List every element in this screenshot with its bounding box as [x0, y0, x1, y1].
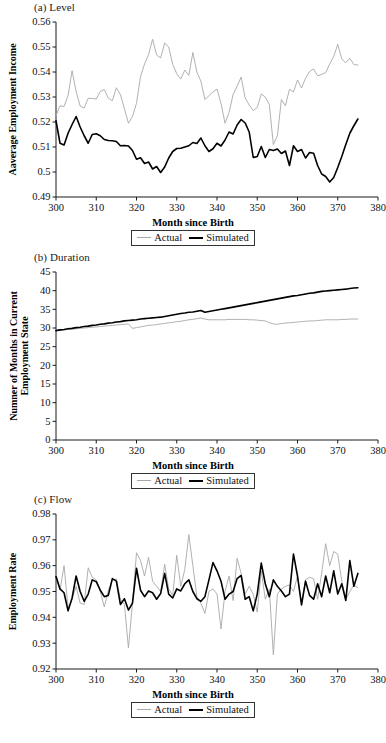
panel-c-title: (c) Flow [0, 492, 386, 506]
panel-level: (a) Level 0.490.50.510.520.530.540.550.5… [0, 0, 386, 246]
legend-item-actual: Actual [137, 704, 182, 715]
y-tick-label: 0.96 [32, 560, 50, 571]
x-tick-label: 350 [249, 202, 265, 213]
panel-a-legend-row: Actual Simulated [0, 228, 386, 246]
legend-line-actual-icon [137, 480, 151, 481]
y-tick-label: 0.94 [32, 612, 51, 623]
y-tick-label: 15 [40, 378, 51, 389]
x-tick-label: 350 [249, 445, 265, 456]
x-tick-label: 360 [290, 202, 306, 213]
panel-flow: (c) Flow 0.920.930.940.950.960.970.98300… [0, 492, 386, 718]
y-tick-label: 0.98 [32, 508, 50, 519]
legend-item-simulated: Simulated [189, 232, 249, 243]
y-tick-label: 0.49 [32, 191, 50, 202]
x-tick-label: 300 [48, 674, 64, 685]
legend-label-simulated: Simulated [206, 704, 249, 715]
x-tick-label: 370 [330, 445, 346, 456]
legend-label-actual: Actual [154, 232, 182, 243]
legend-line-actual-icon [137, 709, 151, 710]
legend-line-actual-icon [137, 237, 151, 238]
x-tick-label: 340 [209, 674, 225, 685]
y-tick-label: 0.56 [32, 16, 50, 27]
series-line-actual [56, 39, 358, 144]
x-tick-label: 310 [88, 445, 104, 456]
x-tick-label: 300 [48, 445, 64, 456]
legend-item-actual: Actual [137, 475, 182, 486]
legend-label-simulated: Simulated [206, 475, 249, 486]
x-tick-label: 320 [129, 202, 145, 213]
x-tick-label: 380 [370, 445, 386, 456]
panel-c-legend: Actual Simulated [131, 702, 255, 718]
x-tick-label: 330 [169, 674, 185, 685]
y-tick-label: 0 [45, 434, 50, 445]
y-axis-label: Aaverage Employment Income [7, 43, 18, 176]
x-tick-label: 330 [169, 445, 185, 456]
x-tick-label: 370 [330, 674, 346, 685]
panel-c-plot-area: 0.920.930.940.950.960.970.98300310320330… [0, 506, 386, 691]
panel-duration: (b) Duration 051015202530354045300310320… [0, 250, 386, 489]
panel-b-title: (b) Duration [0, 250, 386, 264]
legend-item-simulated: Simulated [189, 475, 249, 486]
panel-a-legend: Actual Simulated [131, 230, 255, 246]
x-tick-label: 340 [209, 445, 225, 456]
series-line-simulated [56, 288, 358, 331]
x-tick-label: 320 [129, 445, 145, 456]
y-tick-label: 40 [40, 285, 51, 296]
series-line-simulated [56, 117, 358, 183]
panel-a-svg: 0.490.50.510.520.530.540.550.56300310320… [0, 14, 386, 219]
y-axis-label: Numner of Months in CurrentEmployment St… [8, 291, 30, 421]
series-line-actual [56, 535, 358, 655]
y-tick-label: 0.97 [32, 534, 50, 545]
panel-a-title: (a) Level [0, 0, 386, 14]
x-tick-label: 360 [290, 674, 306, 685]
y-tick-label: 30 [40, 322, 51, 333]
legend-label-actual: Actual [154, 704, 182, 715]
y-tick-label: 0.54 [32, 66, 51, 77]
y-tick-label: 0.55 [32, 41, 50, 52]
x-tick-label: 310 [88, 202, 104, 213]
y-tick-label: 10 [40, 397, 51, 408]
panel-a-plot-area: 0.490.50.510.520.530.540.550.56300310320… [0, 14, 386, 219]
y-tick-label: 0.93 [32, 638, 50, 649]
legend-line-simulated-icon [189, 480, 203, 482]
y-tick-label: 0.52 [32, 116, 50, 127]
y-tick-label: 0.92 [32, 663, 50, 674]
legend-label-simulated: Simulated [206, 232, 249, 243]
panel-b-legend: Actual Simulated [131, 473, 255, 489]
panel-c-svg: 0.920.930.940.950.960.970.98300310320330… [0, 506, 386, 691]
y-tick-label: 5 [45, 416, 50, 427]
panel-b-plot-area: 0510152025303540453003103203303403503603… [0, 264, 386, 462]
x-tick-label: 340 [209, 202, 225, 213]
x-tick-label: 350 [249, 674, 265, 685]
y-tick-label: 25 [40, 341, 51, 352]
panel-c-legend-row: Actual Simulated [0, 700, 386, 718]
x-tick-label: 330 [169, 202, 185, 213]
x-tick-label: 370 [330, 202, 346, 213]
y-tick-label: 20 [40, 360, 51, 371]
y-tick-label: 0.51 [32, 141, 50, 152]
legend-label-actual: Actual [154, 475, 182, 486]
y-tick-label: 45 [40, 266, 51, 277]
y-axis-label: Employment Rate [7, 552, 18, 630]
panel-b-legend-row: Actual Simulated [0, 471, 386, 489]
x-tick-label: 360 [290, 445, 306, 456]
x-tick-label: 380 [370, 674, 386, 685]
y-tick-label: 0.95 [32, 586, 50, 597]
legend-item-simulated: Simulated [189, 704, 249, 715]
y-tick-label: 0.53 [32, 91, 50, 102]
legend-item-actual: Actual [137, 232, 182, 243]
y-tick-label: 35 [40, 304, 51, 315]
figure-root: (a) Level 0.490.50.510.520.530.540.550.5… [0, 0, 386, 743]
y-tick-label: 0.5 [37, 166, 50, 177]
legend-line-simulated-icon [189, 237, 203, 239]
x-tick-label: 310 [88, 674, 104, 685]
x-tick-label: 300 [48, 202, 64, 213]
panel-b-svg: 0510152025303540453003103203303403503603… [0, 264, 386, 462]
x-tick-label: 380 [370, 202, 386, 213]
legend-line-simulated-icon [189, 709, 203, 711]
x-tick-label: 320 [129, 674, 145, 685]
